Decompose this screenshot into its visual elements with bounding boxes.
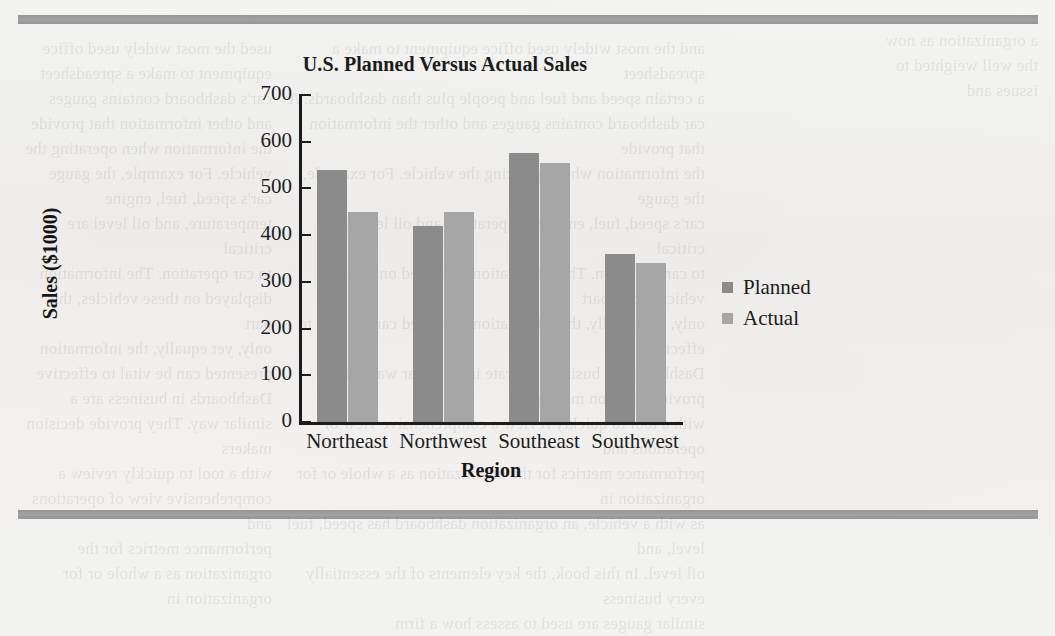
legend-label: Planned — [743, 275, 811, 300]
y-axis-tick-label: 300 — [222, 268, 292, 293]
bar-northwest-actual — [444, 212, 474, 422]
legend-item-planned: Planned — [722, 272, 811, 303]
y-axis-tick-label: 0 — [222, 408, 292, 433]
y-axis-tick-label: 700 — [222, 81, 292, 106]
y-axis-tick-label: 400 — [222, 221, 292, 246]
x-axis-tick-label: Southeast — [491, 429, 587, 454]
y-axis-title: Sales ($1000) — [39, 154, 62, 374]
x-axis-tick-label: Southwest — [587, 429, 683, 454]
x-axis-tick-label: Northeast — [299, 429, 395, 454]
plot-bars-area — [299, 95, 683, 422]
chart-title: U.S. Planned Versus Actual Sales — [0, 53, 890, 76]
y-axis-tick-label: 200 — [222, 315, 292, 340]
y-axis-tick-label: 600 — [222, 128, 292, 153]
bar-northeast-planned — [317, 170, 347, 422]
bar-southeast-planned — [509, 153, 539, 422]
y-axis-tick-label: 100 — [222, 361, 292, 386]
x-axis-line — [299, 422, 683, 425]
bar-southeast-actual — [540, 163, 570, 422]
bar-southwest-planned — [605, 254, 635, 422]
legend-swatch-icon — [722, 282, 733, 293]
legend-swatch-icon — [722, 313, 733, 324]
legend-item-actual: Actual — [722, 303, 811, 334]
bar-southwest-actual — [636, 263, 666, 422]
legend-label: Actual — [743, 306, 799, 331]
y-axis-tick-label: 500 — [222, 174, 292, 199]
bar-northeast-actual — [348, 212, 378, 422]
chart-legend: PlannedActual — [722, 272, 811, 334]
bar-northwest-planned — [413, 226, 443, 422]
x-axis-title: Region — [299, 459, 683, 482]
x-axis-tick-label: Northwest — [395, 429, 491, 454]
